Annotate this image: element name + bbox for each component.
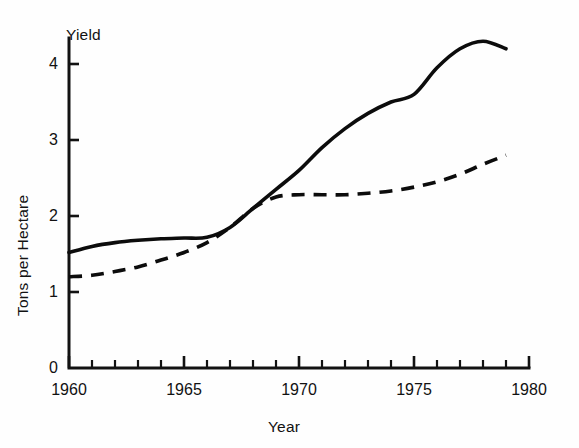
plot-area (0, 0, 579, 448)
axis-lines (69, 38, 529, 368)
series-dashed-line (69, 155, 506, 277)
series-solid-line (69, 41, 506, 252)
series-group (69, 41, 506, 277)
axis-group (69, 38, 529, 368)
chart-canvas: Yield Tons per Hectare Year 4 3 2 1 0 19… (0, 0, 579, 448)
